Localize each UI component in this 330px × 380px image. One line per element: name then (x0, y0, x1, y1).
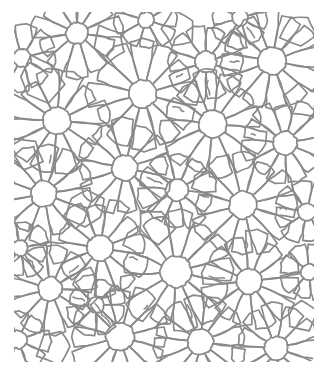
pattern-figure (0, 0, 330, 380)
daisy-tessellation-drawing (0, 0, 330, 380)
